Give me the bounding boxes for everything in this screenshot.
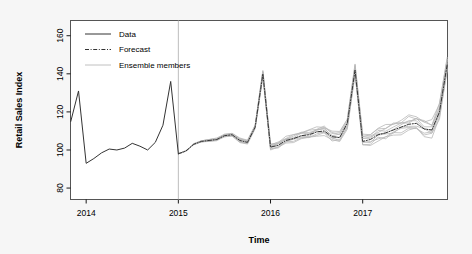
y-tick-label: 120 [56,105,66,119]
retail-sales-forecast-chart: 80100120140160 2014201520162017 Retail S… [0,0,472,254]
x-tick-label: 2015 [169,208,188,218]
x-axis-title: Time [249,235,270,245]
x-tick-label: 2017 [353,208,372,218]
y-tick-label: 140 [56,66,66,80]
x-tick-label: 2014 [77,208,96,218]
legend-label-ensemble-members: Ensemble members [119,61,190,70]
x-tick-label: 2016 [261,208,280,218]
legend-label-data: Data [119,30,136,39]
y-tick-label: 80 [56,183,66,193]
y-axis-title: Retail Sales Index [14,72,24,149]
y-tick-label: 100 [56,143,66,157]
forecast-chart-figure: 80100120140160 2014201520162017 Retail S… [0,0,472,254]
legend-label-forecast: Forecast [119,45,151,54]
y-tick-label: 160 [56,28,66,42]
